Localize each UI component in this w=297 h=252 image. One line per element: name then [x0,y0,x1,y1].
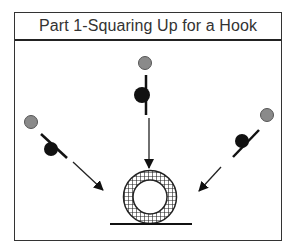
arrow-right-icon [199,167,221,191]
gray-circle-icon [261,109,274,122]
ring-hole [133,180,167,214]
player-right [199,109,274,192]
player-left [25,116,104,191]
target-ring [110,171,192,225]
black-ball-icon [134,87,150,103]
black-ball-icon [235,134,249,148]
black-ball-icon [44,142,58,156]
arrow-left-icon [73,162,103,190]
gray-circle-icon [139,57,152,70]
gray-circle-icon [25,116,38,129]
player-top [134,57,152,169]
diagram-canvas [0,0,297,252]
